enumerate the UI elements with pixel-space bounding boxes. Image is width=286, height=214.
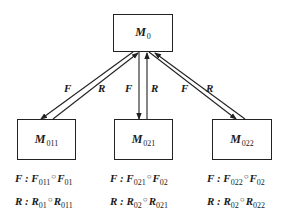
edge-label-f-m022: F <box>181 82 188 94</box>
node-m021-label: M021 <box>132 132 156 148</box>
edge-label-r-m011: R <box>98 82 105 94</box>
edge-label-r-m021: R <box>151 82 158 94</box>
node-m011: M011 <box>17 119 76 160</box>
formula-m022-f: F : F022○F02 <box>207 168 265 191</box>
edge-label-f-m011: F <box>64 82 71 94</box>
node-m022: M022 <box>212 119 272 160</box>
edge-label-f-m021: F <box>125 82 132 94</box>
node-m0-label: M0 <box>135 25 151 41</box>
formula-m011: F : F011○F01 R : R01○R011 <box>15 168 73 214</box>
formula-m021-r: R : R02○R021 <box>110 191 168 214</box>
edge-m0-to-m011 <box>41 52 133 119</box>
node-m0: M0 <box>113 14 173 52</box>
edge-m022-to-m0 <box>155 53 245 119</box>
node-m021: M021 <box>114 119 173 160</box>
formula-m011-f: F : F011○F01 <box>15 168 73 191</box>
node-m011-label: M011 <box>35 132 58 148</box>
formula-m022: F : F022○F02 R : R02○R022 <box>207 168 265 214</box>
edge-label-r-m022: R <box>206 82 213 94</box>
edge-m0-to-m022 <box>149 52 236 119</box>
node-m022-label: M022 <box>230 132 254 148</box>
formula-m022-r: R : R02○R022 <box>207 191 265 214</box>
formula-m011-r: R : R01○R011 <box>15 191 73 214</box>
formula-m021: F : F021○F02 R : R02○R021 <box>110 168 168 214</box>
formula-m021-f: F : F021○F02 <box>110 168 168 191</box>
